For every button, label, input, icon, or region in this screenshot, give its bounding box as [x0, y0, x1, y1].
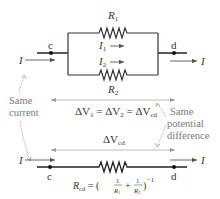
same-potential-text-line3: difference [167, 130, 210, 141]
equivalent-resistance-formula: Rcd = ( [72, 180, 100, 192]
formula-plus: + [125, 180, 131, 191]
equivalent-resistor [37, 162, 187, 172]
same-potential-text-line2: potential [167, 118, 204, 129]
node-d-dot [172, 51, 176, 55]
same-current-text-line2: current [9, 107, 39, 118]
eq-node-d-label: d [171, 170, 177, 182]
parallel-resistor-diagram: R1 R2 I1 I2 c d I I ΔV1 = ΔV2 = ΔVcd ΔVc [0, 0, 220, 199]
node-c-label: c [48, 39, 53, 51]
eq-node-c-dot [48, 165, 52, 169]
node-d-label: d [171, 39, 177, 51]
parallel-circuit: R1 R2 I1 I2 c d I I [18, 9, 206, 97]
i1-label: I1 [98, 39, 107, 53]
eq-node-d-dot [172, 165, 176, 169]
r2-label: R2 [107, 83, 119, 97]
same-potential-dotted-arrow-lower [157, 124, 166, 146]
same-potential-annotation: Same potential difference [155, 103, 210, 147]
formula-exponent: −1 [147, 176, 154, 183]
equivalent-voltage-label: ΔVcd [103, 133, 125, 147]
voltage-equation: ΔV1 = ΔV2 = ΔVcd [75, 105, 158, 119]
resistor-r2 [68, 70, 158, 80]
same-potential-text-line1: Same [170, 106, 194, 117]
eq-current-out-label: I [200, 154, 206, 166]
eq-node-c-label: c [47, 170, 52, 182]
current-in-label: I [18, 54, 24, 66]
formula-close-paren: ) [143, 180, 146, 192]
frac1-denominator: R1 [113, 187, 120, 195]
same-current-text-line1: Same [9, 95, 33, 106]
frac1-numerator: 1 [116, 177, 119, 184]
r1-label: R1 [107, 9, 119, 23]
node-c-dot [49, 51, 53, 55]
current-out-label: I [200, 55, 206, 67]
frac2-numerator: 1 [136, 177, 139, 184]
same-current-annotation: Same current [9, 75, 39, 161]
i2-label: I2 [98, 55, 107, 69]
same-potential-dotted-arrow-upper [157, 104, 166, 118]
voltage-relations: ΔV1 = ΔV2 = ΔVcd ΔVcd [51, 100, 175, 150]
eq-current-in-label: I [18, 154, 24, 166]
resistor-r1 [68, 28, 158, 38]
frac2-denominator: R2 [133, 187, 140, 195]
same-current-dotted-arrow [19, 78, 24, 94]
equivalent-circuit: c d I I Rcd = ( 1 R1 + 1 R2 ) −1 [18, 154, 206, 195]
